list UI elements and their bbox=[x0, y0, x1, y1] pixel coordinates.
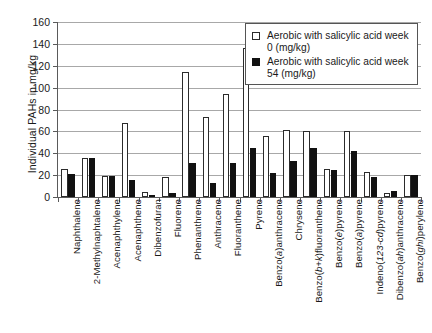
y-tick-mark bbox=[53, 88, 58, 89]
legend-item: Aerobic with salicylic acid week 54 (mg/… bbox=[252, 56, 413, 79]
bar-week54 bbox=[411, 175, 417, 197]
bar-week0 bbox=[283, 130, 289, 197]
chart-legend: Aerobic with salicylic acid week 0 (mg/k… bbox=[245, 23, 418, 85]
bar-group bbox=[142, 22, 155, 197]
bar-week0 bbox=[263, 136, 269, 197]
bar-week0 bbox=[404, 175, 410, 197]
x-axis-label: Benzo(b+k)fluoranthene bbox=[313, 199, 324, 303]
y-tick-mark bbox=[53, 153, 58, 154]
x-axis-label: Naphthalene bbox=[71, 199, 82, 254]
bar-group bbox=[203, 22, 216, 197]
bar-group bbox=[223, 22, 236, 197]
bar-group bbox=[122, 22, 135, 197]
y-tick-label: 60 bbox=[10, 125, 50, 137]
bar-week54 bbox=[270, 173, 276, 197]
filled-square-icon bbox=[252, 58, 260, 66]
x-axis-label: Dibenzo(ah)anthracene bbox=[394, 199, 405, 300]
bar-week0 bbox=[223, 94, 229, 197]
bar-week0 bbox=[324, 169, 330, 197]
bar-week0 bbox=[162, 177, 168, 197]
bar-week54 bbox=[129, 180, 135, 198]
x-axis-label: Acenaphthene bbox=[132, 199, 143, 261]
x-axis-label: Dibenzofuran bbox=[152, 199, 163, 257]
bar-week54 bbox=[109, 176, 115, 197]
bar-week0 bbox=[122, 123, 128, 197]
y-tick-mark bbox=[53, 22, 58, 23]
bar-week54 bbox=[290, 161, 296, 197]
x-axis-label: 2-Methylnaphtalene bbox=[91, 199, 102, 284]
x-axis-label: Pyrene bbox=[253, 199, 264, 230]
bar-week54 bbox=[351, 151, 357, 197]
x-axis-label: Benzo(a)anthracene bbox=[273, 199, 284, 287]
x-axis-labels: Naphthalene2-MethylnaphtaleneAcenaphthyl… bbox=[57, 199, 420, 333]
y-tick-mark bbox=[53, 110, 58, 111]
y-tick-mark bbox=[53, 131, 58, 132]
bar-week54 bbox=[210, 183, 216, 197]
y-tick-label: 20 bbox=[10, 169, 50, 181]
x-axis-label: Fluoranthene bbox=[232, 199, 243, 256]
y-tick-label: 0 bbox=[10, 191, 50, 203]
x-axis-label: Benzo(ghi)perylene bbox=[414, 199, 425, 283]
bar-week54 bbox=[331, 170, 337, 197]
x-axis-label: Benzo(a)pyrene bbox=[353, 199, 364, 268]
x-axis-label: Chrysene bbox=[293, 199, 304, 240]
y-tick-label: 160 bbox=[10, 16, 50, 28]
x-axis-label: Fluorene bbox=[172, 199, 183, 237]
bar-week0 bbox=[364, 172, 370, 197]
y-tick-label: 120 bbox=[10, 60, 50, 72]
x-axis-label: Benzo(e)pyrene bbox=[333, 199, 344, 268]
legend-label: Aerobic with salicylic acid week 54 (mg/… bbox=[267, 56, 413, 79]
y-tick-mark bbox=[53, 44, 58, 45]
bar-week0 bbox=[384, 193, 390, 197]
bar-week54 bbox=[68, 174, 74, 197]
bar-week54 bbox=[310, 148, 316, 197]
x-axis-label: Acenaphthylene bbox=[111, 199, 122, 269]
open-square-icon bbox=[252, 32, 260, 40]
bar-week54 bbox=[230, 163, 236, 197]
y-tick-label: 40 bbox=[10, 147, 50, 159]
bar-week0 bbox=[203, 117, 209, 197]
bar-week0 bbox=[303, 131, 309, 197]
bar-group bbox=[162, 22, 175, 197]
bar-week0 bbox=[102, 176, 108, 197]
bar-group bbox=[61, 22, 74, 197]
bar-week0 bbox=[61, 169, 67, 197]
legend-item: Aerobic with salicylic acid week 0 (mg/k… bbox=[252, 30, 413, 53]
x-axis-label: Phenanthrene bbox=[192, 199, 203, 260]
bar-week54 bbox=[391, 191, 397, 197]
bar-week54 bbox=[169, 193, 175, 197]
bar-week54 bbox=[149, 195, 155, 197]
legend-label: Aerobic with salicylic acid week 0 (mg/k… bbox=[267, 30, 413, 53]
bar-group bbox=[82, 22, 95, 197]
y-tick-mark bbox=[53, 175, 58, 176]
bar-week0 bbox=[142, 192, 148, 197]
bar-week54 bbox=[89, 158, 95, 197]
y-tick-mark bbox=[53, 66, 58, 67]
bar-week54 bbox=[189, 163, 195, 197]
bar-week54 bbox=[371, 177, 377, 197]
bar-group bbox=[102, 22, 115, 197]
y-tick-label: 80 bbox=[10, 104, 50, 116]
y-tick-label: 140 bbox=[10, 38, 50, 50]
x-axis-label: Indeno(123-cd)pyrene bbox=[374, 199, 385, 294]
bar-week0 bbox=[182, 72, 188, 197]
bar-group bbox=[182, 22, 195, 197]
bar-week0 bbox=[344, 131, 350, 197]
bar-chart: Individual PAHs in mg/kg 020406080100120… bbox=[0, 0, 432, 333]
bar-week0 bbox=[82, 158, 88, 197]
bar-week54 bbox=[250, 148, 256, 197]
x-axis-label: Anthracene bbox=[212, 199, 223, 249]
y-tick-label: 100 bbox=[10, 82, 50, 94]
